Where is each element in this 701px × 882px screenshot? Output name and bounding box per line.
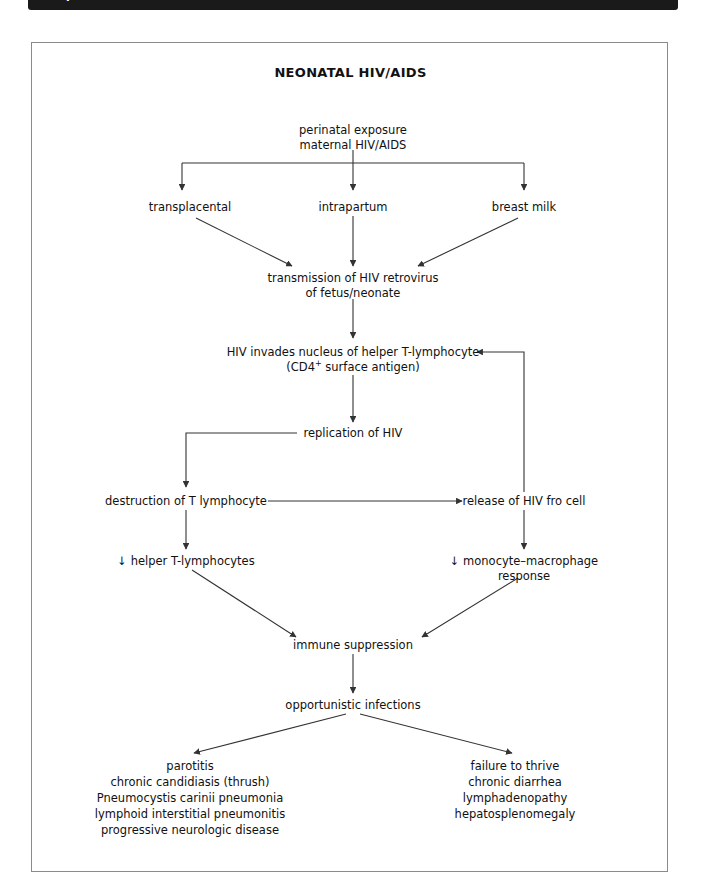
node-intrapartum-label: intrapartum — [319, 200, 388, 215]
node-destruction: destruction of T lymphocyte — [105, 494, 267, 509]
node-transmission-line1: transmission of HIV retrovirus — [267, 271, 438, 286]
outcome-item: parotitis — [95, 758, 285, 774]
node-monocyte-decrease: ↓ monocyte–macrophage response — [450, 554, 598, 583]
node-helper-t-decrease: ↓ helper T-lymphocytes — [117, 554, 254, 569]
node-helper-t-decrease-label: ↓ helper T-lymphocytes — [117, 554, 254, 569]
node-monocyte-decrease-line2: response — [450, 569, 598, 584]
node-transmission: transmission of HIV retrovirus of fetus/… — [267, 271, 438, 300]
figure-title: NEONATAL HIV/AIDS — [0, 65, 701, 80]
outcome-item-species-suffix: pneumonia — [215, 791, 283, 805]
node-source-line1: perinatal exposure — [299, 123, 407, 138]
outcome-item: chronic diarrhea — [455, 774, 576, 790]
node-immune-suppression: immune suppression — [293, 638, 413, 653]
outcome-item: progressive neurologic disease — [95, 822, 285, 838]
node-transplacental: transplacental — [149, 200, 232, 215]
figure-border — [31, 42, 668, 872]
node-invasion: HIV invades nucleus of helper T-lymphocy… — [227, 345, 480, 374]
outcome-item: Pneumocystis carinii pneumonia — [95, 790, 285, 806]
node-release: release of HIV fro cell — [463, 494, 586, 509]
outcome-item: lymphoid interstitial pneumonitis — [95, 806, 285, 822]
outcomes-left-list: parotitis chronic candidiasis (thrush) P… — [95, 758, 285, 838]
node-invasion-line2-prefix: (CD4 — [286, 360, 315, 374]
figure-page: Chapter NEONATAL HIV/AIDS — [0, 0, 701, 882]
node-breast-milk-label: breast milk — [492, 200, 556, 215]
node-invasion-line2: (CD4+ surface antigen) — [227, 360, 480, 375]
node-source: perinatal exposure maternal HIV/AIDS — [299, 123, 407, 152]
node-invasion-line1: HIV invades nucleus of helper T-lymphocy… — [227, 345, 480, 360]
node-breast-milk: breast milk — [492, 200, 556, 215]
node-opportunistic-infections: opportunistic infections — [285, 698, 420, 713]
node-opportunistic-infections-label: opportunistic infections — [285, 698, 420, 713]
outcome-item: failure to thrive — [455, 758, 576, 774]
outcome-item: hepatosplenomegaly — [455, 806, 576, 822]
node-destruction-label: destruction of T lymphocyte — [105, 494, 267, 509]
node-release-label: release of HIV fro cell — [463, 494, 586, 509]
chapter-header-bar: Chapter — [28, 0, 678, 10]
node-invasion-line2-suffix: surface antigen) — [322, 360, 420, 374]
chapter-header-title: Chapter — [42, 0, 93, 2]
node-replication: replication of HIV — [304, 426, 403, 441]
outcome-item-species: Pneumocystis carinii — [97, 791, 215, 805]
node-replication-label: replication of HIV — [304, 426, 403, 441]
node-transplacental-label: transplacental — [149, 200, 232, 215]
outcome-item: chronic candidiasis (thrush) — [95, 774, 285, 790]
node-monocyte-decrease-line1: ↓ monocyte–macrophage — [450, 554, 598, 569]
node-immune-suppression-label: immune suppression — [293, 638, 413, 653]
node-intrapartum: intrapartum — [319, 200, 388, 215]
outcomes-right-list: failure to thrive chronic diarrhea lymph… — [455, 758, 576, 822]
outcome-item: lymphadenopathy — [455, 790, 576, 806]
node-source-line2: maternal HIV/AIDS — [299, 138, 407, 153]
node-transmission-line2: of fetus/neonate — [267, 286, 438, 301]
